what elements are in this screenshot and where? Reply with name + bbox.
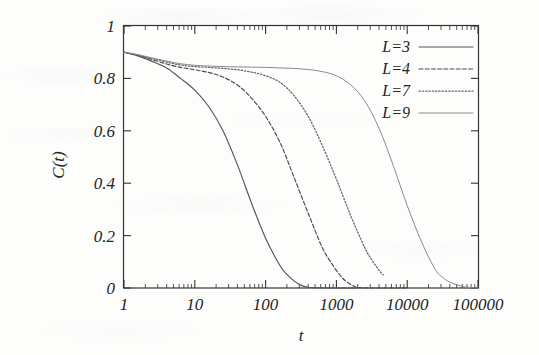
x-tick-label-5: 100000 (453, 295, 505, 314)
y-tick-label-4: 0.8 (94, 69, 116, 88)
y-tick-label-5: 1 (107, 17, 116, 36)
legend-label-L7: L=7 (381, 82, 411, 99)
x-tick-label-2: 100 (253, 295, 279, 314)
legend-label-L4: L=4 (381, 60, 410, 77)
legend-label-L3: L=3 (381, 38, 410, 55)
y-tick-label-3: 0.6 (94, 122, 116, 141)
y-axis-title: C(t) (49, 151, 68, 179)
y-tick-label-2: 0.4 (94, 174, 116, 193)
legend-label-L9: L=9 (381, 104, 410, 121)
x-tick-label-4: 10000 (386, 295, 429, 314)
y-tick-label-1: 0.2 (94, 227, 116, 246)
correlation-decay-plot: 00.20.40.60.81 110100100010000100000 C(t… (0, 0, 539, 355)
y-tick-label-0: 0 (107, 279, 116, 298)
x-tick-label-0: 1 (120, 295, 129, 314)
x-tick-label-3: 1000 (319, 295, 354, 314)
chart-figure: 00.20.40.60.81 110100100010000100000 C(t… (0, 0, 539, 355)
x-tick-label-1: 10 (186, 295, 204, 314)
